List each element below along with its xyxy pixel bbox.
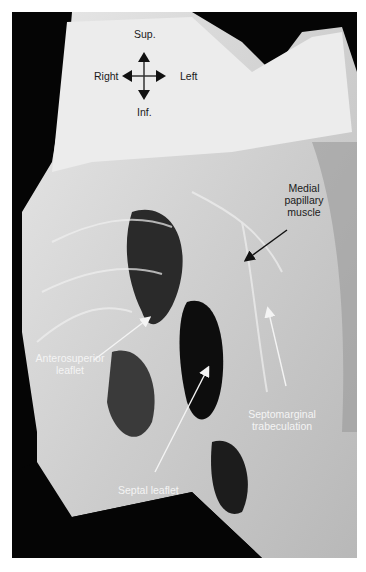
label-inferior: Inf.	[137, 106, 152, 118]
label-superior: Sup.	[134, 28, 156, 40]
label-septal-leaflet: Septal leaflet	[118, 484, 179, 496]
label-left: Left	[180, 70, 198, 82]
label-septomarginal-trabeculation: Septomarginal trabeculation	[242, 408, 322, 432]
label-anterosuperior-leaflet: Anterosuperior leaflet	[30, 352, 110, 376]
heart-specimen-illustration	[12, 12, 357, 558]
label-right: Right	[94, 70, 119, 82]
label-medial-papillary-muscle: Medial papillary muscle	[274, 182, 334, 218]
specimen-photo	[12, 12, 357, 558]
